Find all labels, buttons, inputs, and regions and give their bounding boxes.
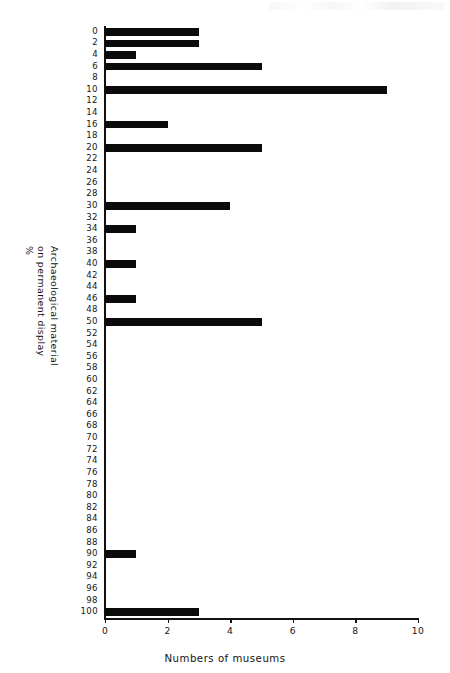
y-tick-label: 72	[86, 445, 98, 454]
x-tick-label: 6	[290, 625, 296, 636]
bar	[105, 51, 136, 59]
y-tick-label: 12	[86, 96, 98, 105]
y-tick-label: 4	[92, 50, 98, 59]
y-tick-label: 18	[86, 131, 98, 140]
y-tick-label: 40	[86, 259, 98, 268]
y-tick-label: 74	[86, 456, 98, 465]
y-tick-label: 22	[86, 154, 98, 163]
y-tick-label: 64	[86, 398, 98, 407]
x-tick-mark	[418, 618, 419, 623]
y-tick-label: 2	[92, 38, 98, 47]
x-tick-label: 4	[227, 625, 233, 636]
y-tick-label: 84	[86, 514, 98, 523]
y-tick-label: 78	[86, 480, 98, 489]
bar	[105, 318, 262, 326]
y-tick-label: 8	[92, 73, 98, 82]
y-axis-title-line-3: %	[22, 246, 35, 366]
chart-figure: Archaeological material on permanent dis…	[0, 0, 450, 673]
bar	[105, 121, 168, 129]
y-tick-label: 90	[86, 549, 98, 558]
y-tick-label: 14	[86, 108, 98, 117]
y-tick-label: 42	[86, 271, 98, 280]
y-tick-label: 28	[86, 189, 98, 198]
x-tick-label: 2	[165, 625, 171, 636]
plot-area	[105, 26, 418, 618]
bar-series	[105, 26, 418, 618]
y-tick-label: 34	[86, 224, 98, 233]
y-tick-label: 94	[86, 572, 98, 581]
y-tick-label: 62	[86, 387, 98, 396]
x-tick-label: 10	[412, 625, 424, 636]
bar	[105, 202, 230, 210]
x-tick-label: 8	[352, 625, 358, 636]
y-tick-label: 80	[86, 491, 98, 500]
x-tick-mark	[230, 618, 231, 623]
y-tick-label: 16	[86, 120, 98, 129]
y-tick-label: 26	[86, 178, 98, 187]
y-axis-tick-labels: 0246810121416182022242628303234363840424…	[58, 26, 102, 618]
y-tick-label: 44	[86, 282, 98, 291]
y-tick-label: 0	[92, 27, 98, 36]
bar	[105, 260, 136, 268]
y-tick-label: 6	[92, 62, 98, 71]
bar	[105, 144, 262, 152]
y-tick-label: 68	[86, 421, 98, 430]
x-tick-mark	[168, 618, 169, 623]
bar	[105, 40, 199, 48]
bar	[105, 550, 136, 558]
bar	[105, 86, 387, 94]
y-tick-label: 76	[86, 468, 98, 477]
y-tick-label: 24	[86, 166, 98, 175]
bar	[105, 295, 136, 303]
y-tick-label: 56	[86, 352, 98, 361]
y-tick-label: 70	[86, 433, 98, 442]
y-tick-label: 50	[86, 317, 98, 326]
x-axis-ticks: 0246810	[105, 618, 425, 644]
scan-artifact	[270, 2, 445, 10]
x-tick-mark	[105, 618, 106, 623]
y-tick-label: 38	[86, 247, 98, 256]
y-tick-label: 82	[86, 503, 98, 512]
x-axis-title: Numbers of museums	[0, 653, 450, 664]
bar	[105, 63, 262, 71]
y-tick-label: 98	[86, 596, 98, 605]
y-tick-label: 100	[80, 607, 98, 616]
y-tick-label: 58	[86, 363, 98, 372]
x-tick-label: 0	[102, 625, 108, 636]
y-tick-label: 66	[86, 410, 98, 419]
y-tick-label: 60	[86, 375, 98, 384]
y-tick-label: 46	[86, 294, 98, 303]
y-tick-label: 96	[86, 584, 98, 593]
y-tick-label: 20	[86, 143, 98, 152]
y-tick-label: 54	[86, 340, 98, 349]
y-tick-label: 30	[86, 201, 98, 210]
y-tick-label: 86	[86, 526, 98, 535]
bar	[105, 608, 199, 616]
y-axis-title: Archaeological material on permanent dis…	[22, 246, 62, 396]
x-tick-mark	[355, 618, 356, 623]
y-tick-label: 88	[86, 538, 98, 547]
y-tick-label: 52	[86, 329, 98, 338]
bar	[105, 28, 199, 36]
y-axis-title-line-2: on permanent display	[35, 246, 48, 366]
y-tick-label: 10	[86, 85, 98, 94]
y-tick-label: 32	[86, 213, 98, 222]
x-tick-mark	[293, 618, 294, 623]
y-tick-label: 36	[86, 236, 98, 245]
y-tick-label: 48	[86, 305, 98, 314]
y-tick-label: 92	[86, 561, 98, 570]
bar	[105, 225, 136, 233]
